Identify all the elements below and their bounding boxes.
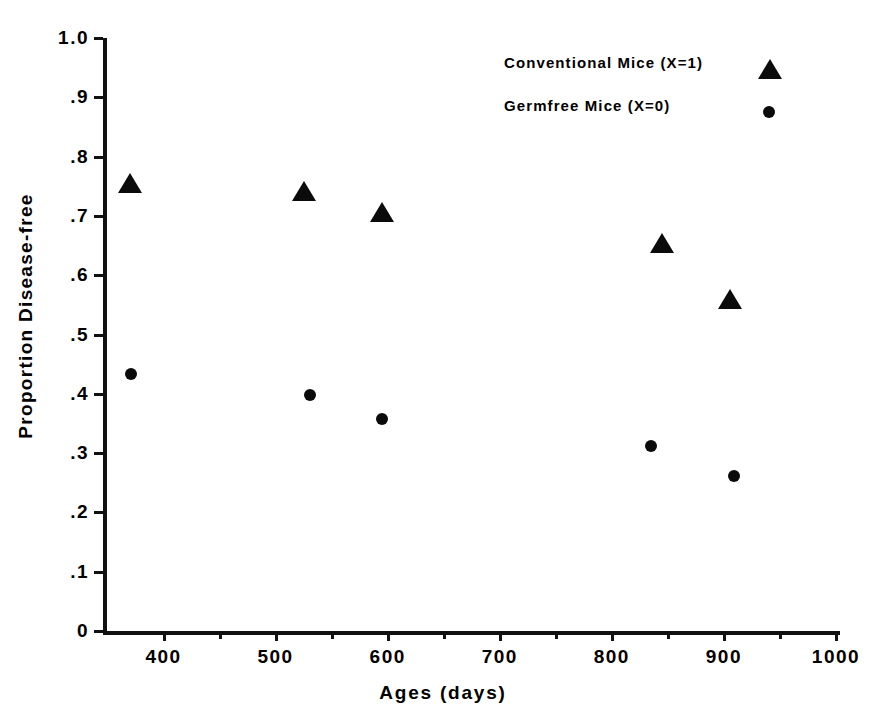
legend-entry-label: Conventional Mice (X=1) xyxy=(504,54,703,71)
y-tick-mark xyxy=(94,96,103,99)
x-tick-label: 500 xyxy=(236,647,316,666)
y-tick-mark xyxy=(94,156,103,159)
data-point-triangle xyxy=(370,202,394,222)
data-point-triangle xyxy=(118,173,142,193)
y-tick-label: .6 xyxy=(70,265,89,284)
y-tick-mark xyxy=(94,571,103,574)
data-point-triangle xyxy=(718,289,742,309)
y-tick-label: .9 xyxy=(70,87,89,106)
y-tick-mark xyxy=(94,215,103,218)
y-tick-label: .5 xyxy=(70,325,89,344)
data-point-circle xyxy=(304,389,316,401)
data-point-circle xyxy=(645,440,657,452)
y-tick-mark xyxy=(94,37,103,40)
legend-entry: Conventional Mice (X=1) xyxy=(504,54,804,84)
chart-legend: Conventional Mice (X=1)Germfree Mice (X=… xyxy=(504,54,804,132)
x-tick-label: 800 xyxy=(572,647,652,666)
y-tick-label: .3 xyxy=(70,443,89,462)
x-tick-label: 400 xyxy=(124,647,204,666)
data-point-circle xyxy=(728,470,740,482)
x-axis-tick-labels: 4005006007008009001000 xyxy=(103,635,836,675)
legend-circle-icon xyxy=(763,106,775,118)
data-point-circle xyxy=(376,413,388,425)
x-tick-label: 900 xyxy=(684,647,764,666)
data-point-circle xyxy=(125,368,137,380)
legend-triangle-icon xyxy=(758,59,782,79)
y-axis-title-text: Proportion Disease-free xyxy=(15,193,37,438)
y-tick-mark xyxy=(94,511,103,514)
y-tick-mark xyxy=(94,274,103,277)
y-tick-label: .8 xyxy=(70,147,89,166)
y-tick-label: .4 xyxy=(70,384,89,403)
y-tick-label: .1 xyxy=(70,562,89,581)
scatter-plot-figure: Proportion Disease-free 1.0.9.8.7.6.5.4.… xyxy=(0,0,886,721)
y-tick-mark xyxy=(94,334,103,337)
y-tick-mark xyxy=(94,452,103,455)
x-tick-label: 1000 xyxy=(796,647,876,666)
y-axis-line xyxy=(103,38,107,635)
y-tick-label: 0 xyxy=(77,621,89,640)
y-tick-label: 1.0 xyxy=(58,28,89,47)
y-tick-mark xyxy=(94,393,103,396)
x-tick-label: 600 xyxy=(348,647,428,666)
y-tick-label: .2 xyxy=(70,502,89,521)
y-tick-label: .7 xyxy=(70,206,89,225)
legend-entry-label: Germfree Mice (X=0) xyxy=(504,97,670,114)
y-tick-mark xyxy=(94,630,103,633)
y-axis-title: Proportion Disease-free xyxy=(8,0,44,631)
x-axis-title: Ages (days) xyxy=(0,682,886,704)
data-point-triangle xyxy=(650,233,674,253)
x-tick-label: 700 xyxy=(460,647,540,666)
legend-entry: Germfree Mice (X=0) xyxy=(504,97,804,127)
data-point-triangle xyxy=(292,181,316,201)
